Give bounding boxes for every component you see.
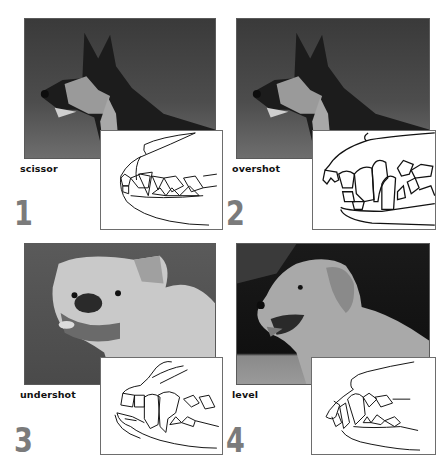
jaw-diagram-overshot <box>312 130 436 230</box>
panel-number: 4 <box>226 424 245 457</box>
jaw-diagram-level <box>311 357 436 455</box>
panel-number: 2 <box>226 197 245 230</box>
bite-label: undershot <box>20 389 76 400</box>
bite-label: overshot <box>232 163 280 174</box>
bite-label: scissor <box>20 163 58 174</box>
jaw-diagram-scissor <box>100 130 223 230</box>
bite-label: level <box>232 389 258 400</box>
panel-number: 3 <box>14 424 33 457</box>
jaw-diagram-undershot <box>100 357 223 455</box>
panel-number: 1 <box>14 197 33 230</box>
